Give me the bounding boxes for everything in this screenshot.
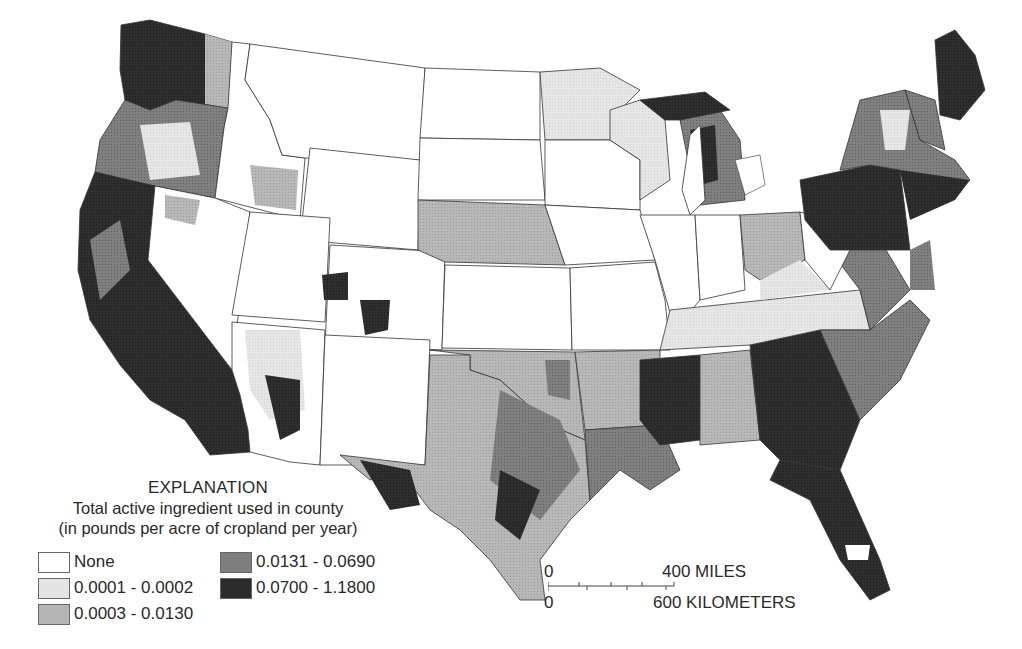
scale-miles-zero: 0	[544, 562, 553, 582]
legend-item-class2: 0.0003 - 0.0130	[38, 602, 193, 626]
legend-item-none: None	[38, 550, 115, 574]
legend-heading: EXPLANATION	[18, 478, 398, 498]
legend-label: 0.0700 - 1.1800	[256, 578, 375, 598]
legend-item-class1: 0.0001 - 0.0002	[38, 576, 193, 600]
swatch-class4	[220, 578, 252, 599]
scale-bar-line	[548, 582, 678, 592]
swatch-class3	[220, 552, 252, 573]
legend-item-class4: 0.0700 - 1.1800	[220, 576, 375, 600]
legend-subtitle-1: Total active ingredient used in county	[18, 498, 398, 518]
legend-label: 0.0003 - 0.0130	[74, 604, 193, 624]
scale-km-zero: 0	[544, 593, 553, 613]
legend-label: 0.0131 - 0.0690	[256, 552, 375, 572]
scale-bar: 0 400 MILES 0 600 KILOMETERS	[540, 560, 840, 620]
legend-subtitle-2: (in pounds per acre of cropland per year…	[18, 518, 398, 538]
swatch-class2	[38, 604, 70, 625]
legend: EXPLANATION Total active ingredient used…	[18, 478, 398, 538]
scale-km-label: 600 KILOMETERS	[653, 593, 796, 613]
legend-label: 0.0001 - 0.0002	[74, 578, 193, 598]
legend-label: None	[74, 552, 115, 572]
scale-miles-label: 400 MILES	[662, 562, 746, 582]
legend-items: None 0.0001 - 0.0002 0.0003 - 0.0130 0.0…	[38, 550, 418, 640]
swatch-none	[38, 552, 70, 573]
legend-item-class3: 0.0131 - 0.0690	[220, 550, 375, 574]
swatch-class1	[38, 578, 70, 599]
